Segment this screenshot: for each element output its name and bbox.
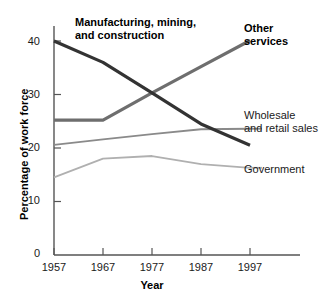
series-label-manufacturing-line1: Manufacturing, mining, [75, 16, 196, 28]
series-label-manufacturing-line2: and construction [75, 29, 164, 41]
series-label-manufacturing: Manufacturing, mining, and construction [75, 16, 196, 43]
series-label-wholesale-line2: and retail sales [244, 122, 318, 134]
series-label-government-line1: Government [244, 163, 305, 175]
work-force-line-chart: 40 30 20 10 0 1957 1967 1977 1987 1997 P… [0, 0, 332, 295]
xtick-label-1967: 1967 [85, 261, 121, 274]
series-label-wholesale-line1: Wholesale [244, 109, 295, 121]
series-label-government: Government [244, 163, 305, 176]
ytick-label-0: 0 [22, 247, 40, 260]
ytick-label-40: 40 [22, 35, 40, 48]
xtick-label-1987: 1987 [183, 261, 219, 274]
series-label-wholesale: Wholesale and retail sales [244, 109, 318, 136]
x-axis-title: Year [128, 279, 176, 292]
series-label-other-services-line1: Other [244, 22, 273, 34]
xtick-label-1977: 1977 [134, 261, 170, 274]
series-label-other-services: Other services [244, 22, 288, 49]
xtick-label-1997: 1997 [232, 261, 268, 274]
y-axis-title: Percentage of work force [18, 89, 30, 220]
series-line-government [54, 156, 250, 177]
y-axis-title-wrapper: Percentage of work force [2, 60, 20, 220]
xtick-label-1957: 1957 [36, 261, 72, 274]
series-label-other-services-line2: services [244, 35, 288, 47]
